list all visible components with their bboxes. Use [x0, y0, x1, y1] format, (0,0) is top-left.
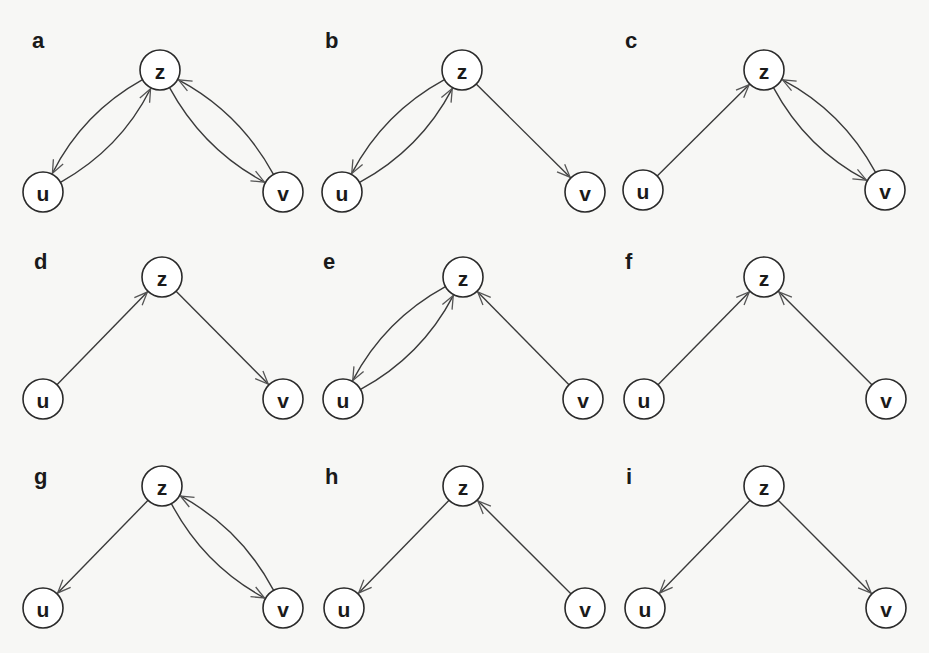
- node-label: u: [338, 598, 351, 621]
- node-u: u: [323, 379, 363, 419]
- edge-z-to-v: [176, 291, 268, 384]
- node-u: u: [623, 170, 663, 210]
- panel-label: i: [626, 464, 632, 489]
- panel-label: c: [625, 28, 637, 53]
- edge-z-to-v: [778, 500, 871, 593]
- edge-v-to-z: [179, 80, 274, 175]
- node-u: u: [324, 588, 364, 628]
- node-label: z: [759, 267, 770, 290]
- edge-u-to-z: [60, 89, 150, 183]
- panel-c: czuv: [623, 28, 905, 210]
- node-label: v: [579, 182, 591, 205]
- node-label: z: [458, 267, 469, 290]
- arrowhead-icon: [353, 366, 364, 380]
- panel-g: gzuv: [23, 464, 303, 628]
- node-v: v: [263, 172, 303, 212]
- node-v: v: [866, 379, 906, 419]
- arrowhead-icon: [250, 171, 264, 182]
- panel-d: dzuv: [23, 249, 303, 419]
- node-label: v: [880, 598, 892, 621]
- edge-u-to-z: [657, 85, 749, 176]
- edge-z-to-u: [660, 500, 750, 593]
- edge-z-to-u: [359, 500, 449, 593]
- node-label: v: [579, 598, 591, 621]
- panel-label: h: [325, 464, 338, 489]
- node-u: u: [23, 588, 63, 628]
- node-z: z: [744, 466, 784, 506]
- edge-z-to-u: [52, 80, 142, 174]
- edge-z-to-v: [773, 88, 866, 181]
- panel-h: hzuv: [324, 464, 605, 628]
- edge-u-to-z: [658, 292, 749, 385]
- node-label: u: [337, 389, 350, 412]
- node-label: z: [759, 476, 770, 499]
- arrowhead-icon: [441, 89, 452, 103]
- arrowhead-icon: [179, 80, 193, 91]
- node-v: v: [563, 379, 603, 419]
- arrowhead-icon: [852, 169, 866, 180]
- node-u: u: [23, 379, 63, 419]
- panel-a: azuv: [23, 28, 303, 212]
- arrowhead-icon: [352, 159, 363, 173]
- panel-label: d: [34, 249, 47, 274]
- causal-graph-figure: azuvbzuvczuvdzuvezuvfzuvgzuvhzuvizuv: [0, 0, 929, 653]
- node-v: v: [865, 170, 905, 210]
- node-label: z: [458, 476, 469, 499]
- edge-v-to-z: [783, 80, 876, 173]
- panel-label: g: [34, 464, 47, 489]
- node-z: z: [142, 257, 182, 297]
- arrowhead-icon: [783, 80, 797, 91]
- node-label: v: [577, 389, 589, 412]
- node-label: z: [457, 60, 468, 83]
- edge-z-to-u: [353, 287, 446, 381]
- edge-u-to-z: [361, 296, 454, 390]
- arrowhead-icon: [180, 496, 194, 507]
- node-label: u: [37, 182, 50, 205]
- node-z: z: [443, 466, 483, 506]
- node-z: z: [140, 50, 180, 90]
- edge-v-to-z: [478, 501, 571, 594]
- arrowhead-icon: [442, 296, 453, 310]
- node-u: u: [625, 588, 665, 628]
- edge-v-to-z: [478, 292, 569, 385]
- node-u: u: [624, 379, 664, 419]
- node-z: z: [442, 50, 482, 90]
- edge-u-to-z: [360, 89, 453, 183]
- panel-label: a: [32, 28, 45, 53]
- node-label: z: [157, 476, 168, 499]
- edge-z-to-v: [170, 88, 265, 183]
- panel-label: f: [625, 249, 633, 274]
- node-z: z: [744, 257, 784, 297]
- arrowhead-icon: [52, 159, 63, 173]
- node-z: z: [443, 257, 483, 297]
- edge-u-to-z: [57, 292, 147, 385]
- node-v: v: [565, 172, 605, 212]
- node-label: z: [759, 60, 770, 83]
- edge-z-to-v: [476, 84, 570, 177]
- edge-v-to-z: [779, 292, 872, 385]
- node-z: z: [142, 466, 182, 506]
- node-label: v: [277, 598, 289, 621]
- node-label: v: [879, 180, 891, 203]
- panel-e: ezuv: [323, 249, 603, 419]
- panel-label: b: [325, 28, 338, 53]
- node-label: u: [37, 389, 50, 412]
- edge-z-to-u: [352, 80, 445, 174]
- node-v: v: [866, 588, 906, 628]
- node-label: z: [157, 267, 168, 290]
- panel-label: e: [323, 249, 335, 274]
- node-z: z: [744, 50, 784, 90]
- edge-v-to-z: [180, 496, 273, 590]
- node-label: u: [639, 598, 652, 621]
- node-label: v: [880, 389, 892, 412]
- panel-i: izuv: [625, 464, 906, 628]
- node-label: v: [277, 389, 289, 412]
- node-label: u: [637, 180, 650, 203]
- edge-z-to-u: [58, 500, 148, 593]
- arrowhead-icon: [250, 587, 264, 598]
- edge-z-to-v: [171, 504, 264, 598]
- node-label: u: [638, 389, 651, 412]
- node-label: z: [155, 60, 166, 83]
- node-u: u: [322, 172, 362, 212]
- node-label: u: [37, 598, 50, 621]
